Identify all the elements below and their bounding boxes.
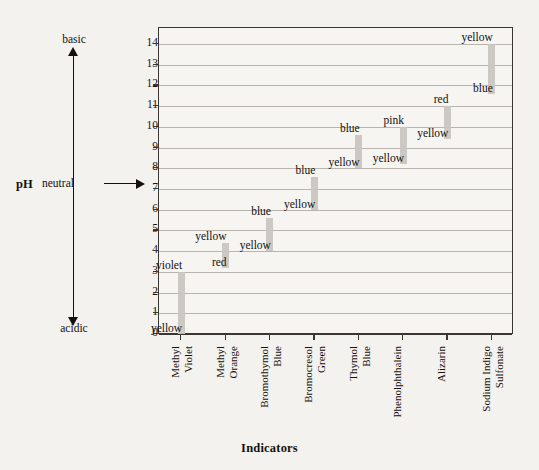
bar-label-low-3: yellow <box>284 198 315 210</box>
bar-label-low-4: yellow <box>328 156 359 168</box>
x-axis-label-3: BromocresolGreen <box>302 346 327 403</box>
x-tick-7 <box>491 334 492 340</box>
x-label-line1-2: Bromothymol <box>258 346 271 408</box>
x-label-line1-1: Methyl <box>214 346 227 378</box>
gridline-ph-8 <box>159 168 512 169</box>
bar-label-low-0: yellow <box>151 322 182 334</box>
x-axis-label-5: Phenolphthalein <box>391 346 404 418</box>
x-axis-label-7: Sodium IndigoSulfonate <box>480 346 505 412</box>
x-label-line2-0: Violet <box>182 346 195 378</box>
bar-label-high-7: yellow <box>462 31 493 43</box>
chart-root: pH basic neutral acidic 1413121110987654… <box>0 0 539 470</box>
x-tick-0 <box>180 334 181 340</box>
x-axis-label-1: MethylOrange <box>214 346 239 378</box>
x-tick-6 <box>446 334 447 340</box>
bar-label-high-6: red <box>434 93 449 105</box>
bar-label-high-3: blue <box>296 164 316 176</box>
x-tick-5 <box>402 334 403 340</box>
gridline-ph-14 <box>159 44 512 45</box>
bar-label-high-4: blue <box>340 122 360 134</box>
ph-vertical-axis-line <box>73 53 74 323</box>
x-label-line1-0: Methyl <box>169 346 182 378</box>
bar-label-low-6: yellow <box>417 127 448 139</box>
x-label-line1-7: Sodium Indigo <box>480 346 493 412</box>
x-tick-2 <box>269 334 270 340</box>
gridline-ph-4 <box>159 251 512 252</box>
gridline-ph-13 <box>159 65 512 66</box>
bar-label-low-2: yellow <box>240 239 271 251</box>
x-axis-label-2: BromothymolBlue <box>258 346 283 408</box>
bar-label-high-2: blue <box>251 205 271 217</box>
gridline-ph-9 <box>159 148 512 149</box>
arrow-down-icon <box>68 317 78 326</box>
ph-basic-label: basic <box>29 33 119 45</box>
gridline-ph-11 <box>159 106 512 107</box>
arrow-up-icon <box>68 47 78 56</box>
x-axis-label-4: ThymolBlue <box>347 346 372 381</box>
gridline-ph-0 <box>159 334 512 335</box>
gridline-ph-3 <box>159 272 512 273</box>
ph-axis-label: pH <box>16 177 33 192</box>
x-label-line2-1: Orange <box>226 346 239 378</box>
gridline-ph-1 <box>159 313 512 314</box>
x-label-line1-6: Alizarin <box>435 346 448 382</box>
gridline-ph-12 <box>159 85 512 86</box>
x-label-line2-7: Sulfonate <box>492 346 505 412</box>
x-label-line2-2: Blue <box>270 346 283 408</box>
bar-label-high-5: pink <box>384 114 404 126</box>
y-axis: 14131211109876543210 <box>125 0 158 470</box>
x-label-line1-3: Bromocresol <box>302 346 315 403</box>
x-axis-label-0: MethylViolet <box>169 346 194 378</box>
bar-label-low-7: blue <box>473 82 493 94</box>
x-axis-label-6: Alizarin <box>435 346 448 382</box>
x-label-line2-4: Blue <box>359 346 372 381</box>
ph-scale: pH basic neutral acidic <box>18 20 130 350</box>
x-tick-1 <box>225 334 226 340</box>
bar-label-low-1: red <box>212 256 227 268</box>
x-tick-4 <box>358 334 359 340</box>
x-label-line1-4: Thymol <box>347 346 360 381</box>
gridline-ph-6 <box>159 210 512 211</box>
gridline-ph-2 <box>159 293 512 294</box>
x-label-line2-3: Green <box>315 346 328 403</box>
bar-label-low-5: yellow <box>373 152 404 164</box>
x-label-line1-5: Phenolphthalein <box>391 346 404 418</box>
bar-label-high-0: violet <box>156 259 182 271</box>
x-tick-3 <box>313 334 314 340</box>
gridline-ph-10 <box>159 127 512 128</box>
plot-area: violetyellowyellowredblueyellowblueyello… <box>158 27 513 334</box>
gridline-ph-7 <box>159 189 512 190</box>
bar-label-high-1: yellow <box>195 230 226 242</box>
x-axis-title: Indicators <box>0 441 539 456</box>
